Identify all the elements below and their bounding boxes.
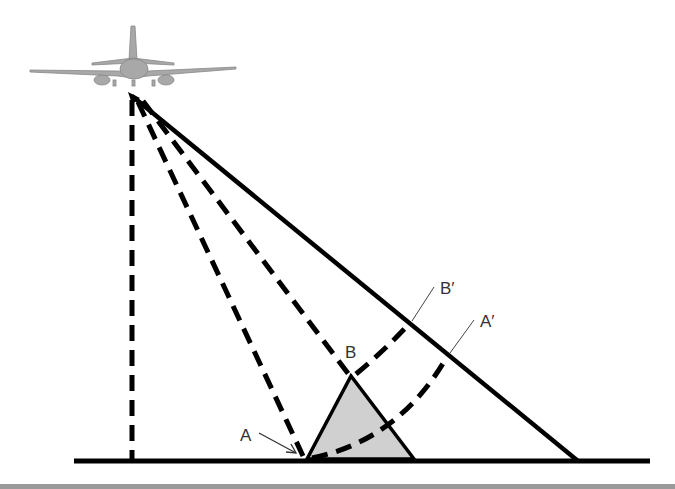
arrow-to-A [259, 433, 296, 453]
label-A: A [240, 426, 252, 445]
leader-Bprime [412, 287, 434, 321]
label-B-prime: B′ [440, 279, 455, 298]
label-B: B [345, 343, 356, 362]
radar-geometry-diagram: A B B′ A′ [0, 0, 675, 489]
terrain-triangle [307, 376, 414, 459]
leader-Aprime [450, 320, 474, 353]
bottom-border [0, 484, 675, 489]
arc-B-to-Bprime [356, 323, 410, 374]
ray-to-A [138, 102, 303, 456]
label-A-prime: A′ [480, 312, 495, 331]
airplane-icon [30, 26, 236, 86]
